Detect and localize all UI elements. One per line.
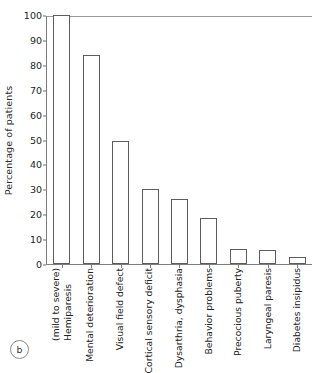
x-axis-label-line: Dysarthria, dysphasia: [173, 268, 185, 368]
panel-letter-badge: b: [10, 340, 29, 359]
x-axis-label-line: Visual field defect: [114, 268, 126, 350]
bar: [83, 55, 100, 264]
y-axis-title: Percentage of patients: [0, 16, 18, 265]
y-tick-label: 60: [30, 111, 42, 121]
bar: [230, 249, 247, 264]
x-label-slot: Precocious puberty: [223, 266, 253, 370]
x-axis-label-line: Cortical sensory deficit: [144, 268, 156, 373]
x-axis-label: Precocious puberty: [232, 268, 244, 356]
panel-letter-text: b: [16, 344, 22, 355]
x-label-slot: Hemiparesis(mild to severe): [46, 266, 76, 370]
x-label-slot: Laryngeal paresis: [253, 266, 283, 370]
x-axis-label-line: (mild to severe): [49, 268, 61, 341]
y-tick-label: 80: [30, 61, 42, 71]
bar-series: [47, 16, 312, 264]
y-tick-label: 30: [30, 186, 42, 196]
y-tick-label: 0: [36, 260, 42, 270]
bar: [289, 257, 306, 264]
bar: [171, 199, 188, 264]
bar-slot: [165, 16, 194, 264]
x-label-slot: Dysarthria, dysphasia: [164, 266, 194, 370]
x-label-slot: Behavior problems: [194, 266, 224, 370]
x-axis-label: Laryngeal paresis: [262, 268, 274, 349]
y-tick-label: 100: [24, 11, 42, 21]
bar-slot: [253, 16, 282, 264]
x-axis-label: Mental deterioration: [85, 268, 97, 362]
bar-slot: [106, 16, 135, 264]
bar: [200, 218, 217, 264]
x-axis-label: Dysarthria, dysphasia: [173, 268, 185, 368]
x-axis-label-line: Mental deterioration: [85, 268, 97, 362]
x-axis-label: Cortical sensory deficit: [144, 268, 156, 373]
bar: [259, 250, 276, 264]
plot-area: [46, 16, 312, 265]
x-axis-labels: Hemiparesis(mild to severe)Mental deteri…: [46, 266, 312, 370]
x-axis-label: Diabetes insipidus: [292, 268, 304, 352]
y-tick-label: 10: [30, 235, 42, 245]
x-label-slot: Diabetes insipidus: [283, 266, 313, 370]
x-axis-label-line: Hemiparesis: [61, 268, 73, 341]
bar-slot: [76, 16, 105, 264]
y-tick-label: 40: [30, 161, 42, 171]
x-axis-label-line: Diabetes insipidus: [292, 268, 304, 352]
x-axis-label-line: Precocious puberty: [232, 268, 244, 356]
x-axis-label-line: Behavior problems: [203, 268, 215, 355]
bar-slot: [135, 16, 164, 264]
x-axis-label: Visual field defect: [114, 268, 126, 350]
y-tick-label: 90: [30, 36, 42, 46]
x-axis-label: Behavior problems: [203, 268, 215, 355]
bar-slot: [47, 16, 76, 264]
y-axis-title-text: Percentage of patients: [4, 86, 15, 196]
bar-slot: [283, 16, 312, 264]
bar-chart-figure: Percentage of patients 01020304050607080…: [0, 0, 318, 373]
x-axis-label: Hemiparesis(mild to severe): [49, 268, 72, 341]
y-axis-ticks: 0102030405060708090100: [18, 16, 46, 265]
x-axis-label-line: Laryngeal paresis: [262, 268, 274, 349]
bar-slot: [224, 16, 253, 264]
y-tick-label: 70: [30, 86, 42, 96]
bar: [112, 141, 129, 264]
bar: [53, 15, 70, 264]
y-tick-label: 50: [30, 136, 42, 146]
bar-slot: [194, 16, 223, 264]
x-label-slot: Mental deterioration: [76, 266, 106, 370]
x-label-slot: Visual field defect: [105, 266, 135, 370]
bar: [142, 189, 159, 264]
y-tick-label: 20: [30, 210, 42, 220]
x-label-slot: Cortical sensory deficit: [135, 266, 165, 370]
